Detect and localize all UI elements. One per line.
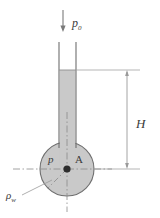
label-point-a: A — [75, 153, 83, 165]
label-p-inner: p — [47, 153, 54, 165]
point-a-marker — [63, 165, 70, 172]
manometer-figure: p0 H p A ρw — [0, 0, 160, 218]
fluid-column-joint — [60, 140, 76, 166]
label-H: H — [135, 116, 146, 131]
manometer-diagram-svg: p0 H p A ρw — [0, 0, 160, 218]
